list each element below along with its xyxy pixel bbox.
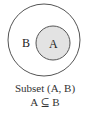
caption-relation: A ⊆ B xyxy=(0,96,90,108)
venn-diagram: B A xyxy=(0,0,90,80)
set-b-label: B xyxy=(22,36,30,50)
caption-title: Subset (A, B) xyxy=(0,82,90,94)
set-a-label: A xyxy=(49,37,58,51)
